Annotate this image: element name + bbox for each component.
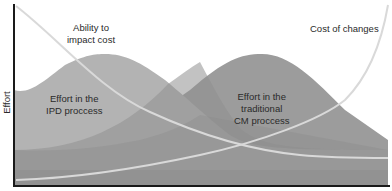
ipd-label-line1: Effort in the bbox=[46, 93, 103, 105]
bottom-band bbox=[14, 170, 388, 185]
cost-of-changes-label: Cost of changes bbox=[310, 23, 379, 35]
ipd-effort-label: Effort in the IPD proccess bbox=[46, 93, 103, 117]
ability-label-line2: impact cost bbox=[67, 34, 115, 46]
y-axis-label: Effort bbox=[1, 91, 12, 114]
ipd-label-line2: IPD proccess bbox=[46, 105, 103, 117]
cm-label-line3: CM proccess bbox=[234, 115, 289, 127]
ability-label-line1: Ability to bbox=[67, 22, 115, 34]
cm-label-line1: Effort in the bbox=[234, 91, 289, 103]
cm-label-line2: traditional bbox=[234, 103, 289, 115]
cm-effort-label: Effort in the traditional CM proccess bbox=[234, 91, 289, 127]
ability-to-impact-cost-label: Ability to impact cost bbox=[67, 22, 115, 46]
